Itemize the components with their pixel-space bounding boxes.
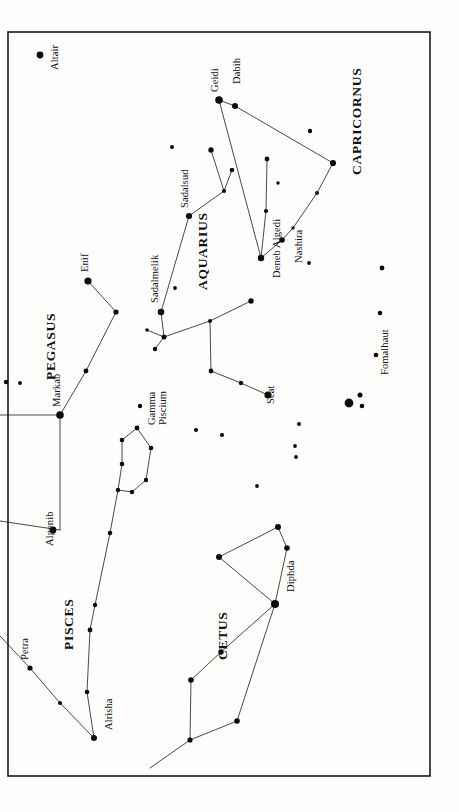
constellation-lines-layer — [0, 100, 333, 768]
constellation-label-capricornus: CAPRICORNUS — [350, 68, 364, 175]
star-label-deneb-algedi: Deneb Algedi — [272, 219, 283, 278]
star-fomalhaut — [345, 399, 354, 408]
star-field-gamma-piscium — [135, 426, 140, 431]
constellation-line-gamma-piscium — [122, 428, 137, 440]
star-label-sadalmelik: Sadalmelik — [150, 255, 161, 303]
star-petra — [27, 665, 32, 670]
star-field-aquarius — [239, 381, 243, 385]
star-label-altair: Altair — [50, 45, 61, 70]
star-field-bg-14 — [293, 444, 297, 448]
constellation-line-gamma-piscium — [146, 448, 151, 480]
constellation-line-capricornus — [266, 159, 267, 211]
star-chart: PEGASUSMarkabAlgenibEnifAQUARIUSSadalmel… — [0, 0, 459, 812]
star-label-geidi: Geidi — [210, 68, 221, 92]
sky-canvas — [0, 0, 459, 812]
constellation-line-aquarius — [224, 170, 232, 191]
star-field-pisces — [93, 603, 97, 607]
star-label-dabih: Dabih — [232, 58, 243, 84]
constellation-line-pisces — [87, 630, 90, 692]
constellation-line-pisces — [90, 605, 95, 630]
star-field-aquarius — [153, 347, 157, 351]
constellation-line-pegasus — [60, 371, 86, 415]
star-field-cetus — [188, 677, 194, 683]
star-field-gamma-piscium — [120, 462, 125, 467]
star-field-capricornus — [308, 129, 312, 133]
star-diphda — [271, 600, 279, 608]
star-field-cetus — [187, 737, 192, 742]
star-field-bg-12 — [220, 433, 224, 437]
star-label-sadalsud: Sadalsud — [180, 169, 191, 208]
constellation-label-cetus: CETUS — [216, 611, 230, 660]
constellation-label-aquarius: AQUARIUS — [196, 212, 210, 290]
constellation-line-aquarius — [241, 383, 268, 395]
star-field-pisces — [85, 690, 90, 695]
star-field-cetus — [284, 545, 290, 551]
star-field-gamma-piscium — [130, 490, 134, 494]
constellation-line-capricornus — [317, 163, 333, 193]
star-enif — [84, 277, 91, 284]
constellation-line-aquarius — [211, 150, 224, 191]
star-label-scat: Scat — [266, 386, 277, 404]
constellation-line-aquarius — [210, 321, 211, 371]
constellation-line-aquarius — [161, 312, 164, 337]
star-field-aquarius — [173, 286, 177, 290]
constellation-line-cetus — [190, 721, 237, 740]
star-label-markab: Markab — [52, 374, 63, 407]
constellation-line-pisces — [110, 490, 118, 533]
constellation-line-pegasus — [86, 312, 116, 371]
constellation-line-cetus — [278, 527, 287, 548]
star-field-capricornus — [276, 181, 279, 184]
star-field-aquarius — [208, 319, 212, 323]
constellation-line-cetus — [219, 527, 278, 557]
star-label-diphda: Diphda — [286, 560, 297, 592]
star-label-algenib: Algenib — [45, 511, 56, 546]
constellation-line-aquarius — [161, 216, 189, 312]
star-field-capricornus — [265, 157, 270, 162]
star-field-bg-13 — [297, 422, 301, 426]
star-alrisha — [91, 735, 97, 741]
star-field-bg-8 — [4, 380, 8, 384]
constellation-line-capricornus — [235, 106, 333, 163]
constellation-line-cetus — [150, 740, 190, 768]
constellation-line-aquarius — [147, 330, 164, 337]
star-field-aquarius — [222, 189, 226, 193]
star-label-nashira: Nashira — [294, 230, 305, 263]
star-label-fomalhaut: Fomalhaut — [380, 329, 391, 375]
star-field-capricornus — [315, 191, 319, 195]
star-altair — [37, 52, 44, 59]
star-field-gamma-piscium — [144, 478, 148, 482]
asterism-label-gamma-piscium: GammaPiscium — [146, 391, 168, 425]
star-label-alrisha: Alrisha — [104, 698, 115, 730]
star-field-aquarius — [209, 369, 214, 374]
star-field-bg-3 — [378, 311, 383, 316]
constellation-label-pisces: PISCES — [62, 599, 76, 650]
constellation-line-pisces — [95, 533, 110, 605]
star-field-bg-7 — [170, 145, 174, 149]
star-field-aquarius — [230, 168, 235, 173]
constellation-line-aquarius — [164, 321, 210, 337]
constellation-line-pisces — [60, 703, 94, 738]
star-field-aquarius — [145, 328, 149, 332]
constellation-line-pisces — [30, 668, 60, 703]
star-field-gamma-piscium — [149, 446, 154, 451]
star-field-cetus — [234, 718, 240, 724]
constellation-line-gamma-piscium — [137, 428, 151, 448]
star-field-pisces — [88, 628, 93, 633]
constellation-line-capricornus — [219, 100, 261, 258]
constellation-line-capricornus — [293, 193, 317, 228]
star-field-pisces — [58, 701, 62, 705]
star-field-aquarius — [208, 147, 213, 152]
star-geidi — [215, 96, 223, 104]
constellation-line-gamma-piscium — [132, 480, 146, 492]
star-sadalsud — [186, 213, 192, 219]
star-field-cetus — [275, 524, 281, 530]
star-field-bg-9 — [18, 381, 22, 385]
constellation-line-aquarius — [211, 371, 241, 383]
star-field-bg-6 — [360, 404, 365, 409]
star-label-petra: Petra — [20, 638, 31, 660]
constellation-line-capricornus — [261, 211, 266, 258]
star-field-pegasus — [113, 309, 118, 314]
star-field-pisces — [108, 531, 113, 536]
constellation-line-gamma-piscium — [118, 464, 122, 490]
star-field-bg-4 — [374, 353, 379, 358]
